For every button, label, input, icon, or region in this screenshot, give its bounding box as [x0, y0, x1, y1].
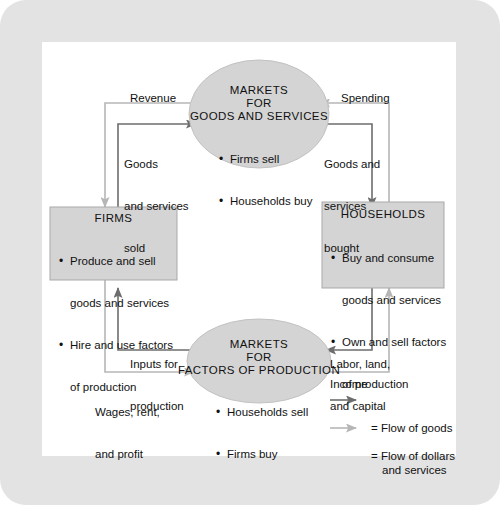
markets-for-factors-title-line-3: FACTORS OF PRODUCTION: [178, 363, 340, 377]
flow-label-goods-sold-line-2: and services: [124, 199, 189, 213]
flow-label-goods-sold: Goods and services sold: [124, 129, 189, 283]
markets-for-factors-bullet-2: Firms buy: [215, 447, 308, 461]
markets-for-factors-title-line-1: MARKETS: [189, 337, 329, 351]
markets-for-goods-bullets: Firms sell Households buy: [218, 124, 312, 236]
flow-label-income: Income: [330, 377, 368, 391]
markets-for-goods-title-line-3: GOODS AND SERVICES: [184, 109, 334, 123]
flow-label-labor-line-1: Labor, land,: [330, 357, 390, 371]
markets-for-goods-bullet-1: Firms sell: [218, 152, 312, 166]
flow-label-revenue: Revenue: [130, 91, 176, 105]
flow-label-goods-bought-line-2: services: [324, 199, 380, 213]
flow-label-goods-sold-line-1: Goods: [124, 157, 189, 171]
flow-label-wages-line-1: Wages, rent,: [95, 405, 160, 419]
firms-bullet-1-cont: goods and services: [58, 296, 173, 310]
flow-label-goods-bought: Goods and services bought: [324, 129, 380, 283]
flow-label-spending: Spending: [341, 91, 390, 105]
markets-for-goods-bullet-2: Households buy: [218, 194, 312, 208]
markets-for-factors-bullet-1: Households sell: [215, 405, 308, 419]
flow-label-inputs-line-1: Inputs for: [130, 357, 184, 371]
markets-for-factors-bullets: Households sell Firms buy: [215, 377, 308, 489]
markets-for-factors-title-line-2: FOR: [189, 350, 329, 364]
flow-label-goods-bought-line-1: Goods and: [324, 157, 380, 171]
legend-item-dollars-text: = Flow of dollars: [371, 421, 455, 491]
flow-label-wages-line-2: and profit: [95, 447, 160, 461]
markets-for-goods-title-line-1: MARKETS: [189, 83, 329, 97]
flow-label-goods-bought-line-3: bought: [324, 241, 380, 255]
flow-label-wages-rent-profit: Wages, rent, and profit: [95, 377, 160, 489]
households-bullet-1-cont: goods and services: [330, 293, 446, 307]
markets-for-goods-title-line-2: FOR: [189, 96, 329, 110]
circular-flow-diagram: MARKETS FOR GOODS AND SERVICES Firms sel…: [0, 0, 500, 505]
flow-label-goods-sold-line-3: sold: [124, 241, 189, 255]
legend-dollars-line-1: = Flow of dollars: [371, 449, 455, 463]
